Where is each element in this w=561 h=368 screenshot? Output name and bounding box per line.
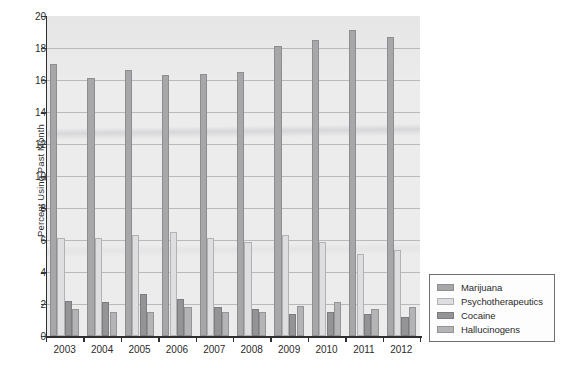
bar-hallucinogens-2003 [72, 309, 79, 336]
bar-psychotherapeutics-2011 [357, 254, 364, 336]
y-axis: 02468101214161820 [8, 16, 46, 336]
plot-area [46, 16, 420, 336]
bar-marijuana-2004 [87, 78, 94, 336]
bar-hallucinogens-2007 [222, 312, 229, 336]
bar-cocaine-2008 [252, 309, 259, 336]
legend-label-marijuana: Marijuana [461, 282, 502, 293]
bar-cocaine-2003 [65, 301, 72, 336]
bar-marijuana-2005 [125, 70, 132, 336]
legend-label-hallucinogens: Hallucinogens [461, 324, 520, 335]
bar-psychotherapeutics-2005 [132, 235, 139, 336]
caption-remnant [38, 359, 478, 367]
bar-psychotherapeutics-2012 [394, 250, 401, 336]
x-tick-mark [196, 337, 197, 342]
bar-marijuana-2009 [274, 46, 281, 336]
bar-hallucinogens-2006 [184, 307, 191, 336]
bars-layer [46, 16, 420, 336]
legend-swatch-icon-psychotherapeutics [437, 298, 454, 305]
bar-cocaine-2006 [177, 299, 184, 336]
x-tick-mark [420, 337, 421, 342]
bar-psychotherapeutics-2006 [170, 232, 177, 336]
bar-cocaine-2012 [401, 317, 408, 336]
bar-cocaine-2009 [289, 314, 296, 336]
bar-hallucinogens-2012 [409, 307, 416, 336]
x-tick-mark [270, 337, 271, 342]
bar-psychotherapeutics-2004 [95, 238, 102, 336]
x-tick-mark [308, 337, 309, 342]
legend-item-cocaine: Cocaine [437, 308, 548, 322]
x-tick-mark [158, 337, 159, 342]
x-tick-mark [233, 337, 234, 342]
bar-hallucinogens-2009 [297, 306, 304, 336]
bar-marijuana-2008 [237, 72, 244, 336]
bar-cocaine-2005 [140, 294, 147, 336]
x-tick-mark [83, 337, 84, 342]
bar-hallucinogens-2004 [110, 312, 117, 336]
bar-marijuana-2011 [349, 30, 356, 336]
legend-item-marijuana: Marijuana [437, 280, 548, 294]
bar-cocaine-2011 [364, 314, 371, 336]
legend-item-psychotherapeutics: Psychotherapeutics [437, 294, 548, 308]
y-axis-line [46, 16, 47, 337]
bar-hallucinogens-2011 [371, 309, 378, 336]
legend-swatch-icon-marijuana [437, 284, 454, 291]
legend-swatch-icon-cocaine [437, 312, 454, 319]
bar-cocaine-2004 [102, 302, 109, 336]
bar-marijuana-2007 [200, 74, 207, 336]
bar-marijuana-2006 [162, 75, 169, 336]
legend-label-cocaine: Cocaine [461, 310, 496, 321]
bar-marijuana-2010 [312, 40, 319, 336]
bar-psychotherapeutics-2008 [244, 242, 251, 336]
legend-swatch-icon-hallucinogens [437, 326, 454, 333]
x-tick-mark [383, 337, 384, 342]
chart-legend: Marijuana Psychotherapeutics Cocaine Hal… [429, 274, 555, 342]
x-tick-mark [46, 337, 47, 342]
bar-psychotherapeutics-2009 [282, 235, 289, 336]
bar-psychotherapeutics-2003 [57, 238, 64, 336]
legend-item-hallucinogens: Hallucinogens [437, 322, 548, 336]
bar-marijuana-2003 [50, 64, 57, 336]
bar-hallucinogens-2010 [334, 302, 341, 336]
bar-hallucinogens-2008 [259, 312, 266, 336]
legend-label-psychotherapeutics: Psychotherapeutics [461, 296, 543, 307]
bar-chart: Percent Using Past Month 024681012141618… [0, 0, 561, 368]
bar-marijuana-2012 [387, 37, 394, 336]
bar-psychotherapeutics-2010 [319, 242, 326, 336]
x-tick-mark [121, 337, 122, 342]
x-tick-mark [345, 337, 346, 342]
bar-hallucinogens-2005 [147, 312, 154, 336]
x-tick-label-2012: 2012 [379, 344, 423, 355]
bar-cocaine-2007 [214, 307, 221, 336]
bar-cocaine-2010 [327, 312, 334, 336]
bar-psychotherapeutics-2007 [207, 238, 214, 336]
